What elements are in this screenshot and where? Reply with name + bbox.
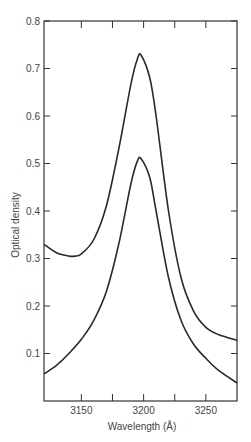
y-axis-ticks: 0.10.20.30.40.50.60.70.8 [26,16,237,360]
y-tick-label: 0.2 [26,301,40,312]
chart-svg: 0.10.20.30.40.50.60.70.8 315032003250 Wa… [0,0,251,442]
y-tick-label: 0.3 [26,253,40,264]
curve-upper-curve [44,54,237,340]
y-tick-label: 0.6 [26,111,40,122]
y-tick-label: 0.7 [26,63,40,74]
x-tick-label: 3200 [132,405,155,416]
x-tick-label: 3150 [70,405,93,416]
curve-lower-curve [44,157,237,383]
y-tick-label: 0.5 [26,158,40,169]
y-tick-label: 0.4 [26,206,40,217]
plot-frame [44,21,237,401]
y-axis-label: Optical density [10,192,21,258]
y-tick-label: 0.8 [26,16,40,27]
y-tick-label: 0.1 [26,348,40,359]
x-axis-ticks: 315032003250 [70,21,217,416]
x-axis-label: Wavelength (Å) [108,420,177,432]
data-curves [44,54,237,383]
x-tick-label: 3250 [195,405,218,416]
